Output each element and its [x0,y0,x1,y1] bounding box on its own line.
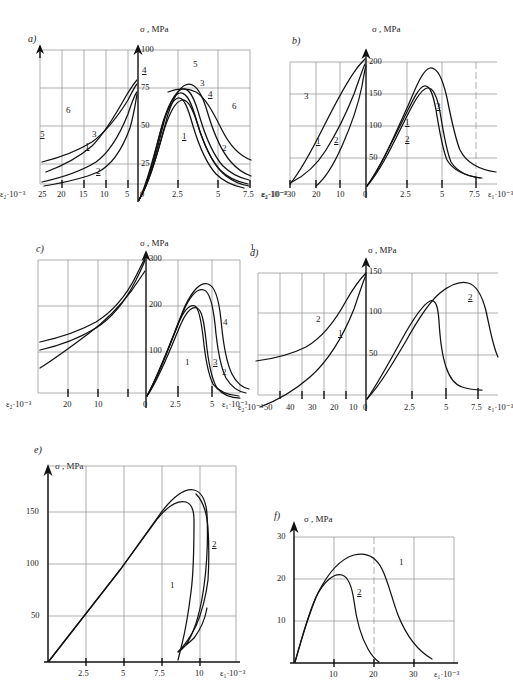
panel-b: b) σ , MPa [262,22,510,212]
panel-f-xtick-10: 10 [329,670,338,679]
panel-e-curve-label-1: 1 [170,581,175,590]
panel-e: e) σ , MPa [0,440,270,697]
panel-a-curve-label-1L: 1 [85,142,90,151]
panel-d-left-xtick-20: 20 [330,403,339,412]
panel-b-ytick-200: 200 [369,57,382,66]
panel-f-ytick-20: 20 [277,574,286,583]
panel-a-ytick-50: 50 [141,121,150,130]
panel-a-curve-label-5R: 5 [193,60,198,69]
panel-e-plot [0,440,270,697]
panel-a-right-xtick-75: 7.5 [243,190,254,199]
panel-f: f) σ , MPa 30 20 10 10 20 [262,505,510,697]
panel-b-curve-label-3L: 3 [304,92,309,101]
panel-e-x-axis-title: ε₁·10⁻³ [220,669,245,678]
panel-d-right-xtick-75: 7.5 [471,403,482,412]
panel-d-right-xtick-5: 5 [444,403,448,412]
panel-c-curve-label-2: 2 [222,368,227,377]
panel-d-ytick-100: 100 [369,307,382,316]
panel-d-left-xtick-50: 50 [264,403,273,412]
panel-e-xtick-10: 10 [195,669,204,678]
panel-a-plot [0,22,262,212]
panel-b-ytick-100: 100 [369,121,382,130]
panel-e-xtick-25: 2.5 [78,669,89,678]
panel-a-curve-label-3L: 3 [92,130,97,139]
panel-a-curve-label-2L: 2 [96,167,101,176]
panel-c-curve-label-4: 4 [223,318,228,327]
panel-a-curve-label-5L: 5 [40,130,45,139]
panel-b-ytick-150: 150 [369,89,382,98]
panel-c-right-xtick-5: 5 [210,400,214,409]
panel-f-plot [262,505,510,697]
panel-f-x-axis-title: ε₁·10⁻³ [434,670,459,679]
panel-b-plot [262,22,510,212]
panel-f-ytick-10: 10 [277,616,286,625]
panel-a-curve-label-6R: 6 [232,102,237,111]
panel-a-curve-label-4T: 4 [142,66,147,75]
panel-b-right-xtick-5: 5 [440,190,444,199]
panel-a-left-xtick-10: 10 [100,190,109,199]
panel-a-curve-label-2R: 2 [222,144,227,153]
panel-c-plot [0,238,250,420]
panel-d-right-xtick-25: 2.5 [404,403,415,412]
panel-d-curve-label-2R: 2 [468,293,473,302]
panel-d-left-xtick-30: 30 [308,403,317,412]
panel-a-right-xtick-25: 2.5 [172,190,183,199]
panel-a-right-xtick-5: 5 [216,190,220,199]
panel-c-left-xtick-20: 20 [63,400,72,409]
panel-a-curve-label-1R: 1 [182,132,187,141]
panel-b-curve-label-1L: 1 [316,137,321,146]
panel-f-curve-label-2: 2 [357,588,362,597]
panel-a-ytick-100: 100 [141,45,154,54]
panel-b-right-axis-title: ε₁·10⁻³ [488,190,513,199]
panel-b-right-xtick-25: 2.5 [400,190,411,199]
panel-d-curve-label-1L: 1 [338,329,343,338]
panel-a-left-axis-title: ε₂·10⁻³ [0,190,25,199]
panel-e-xtick-5: 5 [121,669,125,678]
panel-d-ytick-50: 50 [369,349,378,358]
panel-a-curve-label-3R: 3 [200,79,205,88]
panel-c-curve-label-3: 3 [213,358,218,367]
panel-c-ytick-100: 100 [149,346,162,355]
panel-d-left-xtick-0: 0 [363,403,367,412]
panel-d-right-axis-title: ε₁·10⁻³ [488,403,513,412]
panel-d-left-axis-title: ε₂·10⁻³ [238,403,263,412]
panel-d: d) σ , MPa [250,243,510,425]
panel-b-left-axis-title: ε₂·10⁻³ [261,190,286,199]
panel-b-curve-label-1R: 1 [405,118,410,127]
panel-d-left-xtick-10: 10 [349,403,358,412]
panel-b-left-xtick-30: 30 [287,190,296,199]
panel-d-curve-label-2L: 2 [316,315,321,324]
panel-a-left-xtick-5: 5 [125,190,129,199]
panel-d-ytick-150: 150 [369,267,382,276]
panel-a-left-xtick-25: 25 [38,190,47,199]
panel-c-curve-label-1: 1 [185,358,190,367]
panel-d-left-xtick-40: 40 [286,403,295,412]
panel-f-ytick-30: 30 [277,532,286,541]
panel-b-curve-label-3R: 3 [436,102,441,111]
panel-b-left-xtick-0: 0 [363,190,367,199]
panel-c: c) σ , MPa [0,238,250,420]
panel-e-ytick-50: 50 [31,611,40,620]
panel-b-curve-label-2L: 2 [334,136,339,145]
panel-d-curve-label-1R: 1 [250,243,255,252]
panel-f-curve-label-1: 1 [399,558,404,567]
panel-a-left-xtick-15: 15 [79,190,88,199]
panel-b-ytick-50: 50 [369,153,378,162]
panel-e-ytick-100: 100 [26,559,39,568]
panel-b-curve-label-2R: 2 [405,135,410,144]
panel-c-left-axis-title: ε₂·10⁻³ [6,400,31,409]
panel-c-ytick-200: 200 [149,300,162,309]
panel-a-ytick-25: 25 [141,159,150,168]
panel-c-left-xtick-10: 10 [94,400,103,409]
panel-b-left-xtick-10: 10 [336,190,345,199]
panel-c-left-xtick-0: 0 [143,400,147,409]
panel-b-left-xtick-20: 20 [312,190,321,199]
panel-a-ytick-75: 75 [141,83,150,92]
panel-e-ytick-150: 150 [26,507,39,516]
panel-c-right-xtick-25: 2.5 [170,400,181,409]
panel-e-curve-label-2: 2 [212,540,217,549]
panel-c-ytick-300: 300 [149,254,162,263]
panel-a: a) σ , MPa [0,22,262,212]
panel-a-left-xtick-20: 20 [57,190,66,199]
panel-a-curve-label-6L: 6 [66,106,71,115]
